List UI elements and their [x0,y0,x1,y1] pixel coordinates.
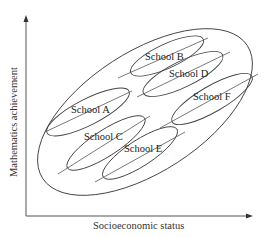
multilevel-diagram: School A School B School D School F Scho… [0,0,273,237]
school-e-label: School E [124,143,162,154]
school-c-label: School C [84,131,123,142]
school-a-label: School A [71,104,110,115]
y-axis-label: Mathematics achievement [8,67,19,177]
overall-population-ellipse [10,0,273,229]
school-d-label: School D [169,68,209,79]
school-e-group: School E [95,118,185,188]
y-axis-arrow-icon [24,15,29,22]
x-axis-arrow-icon [246,214,253,219]
school-f-label: School F [193,91,231,102]
axes [24,15,254,219]
school-b-label: School B [145,51,184,62]
x-axis-label: Socioeconomic status [93,220,184,231]
